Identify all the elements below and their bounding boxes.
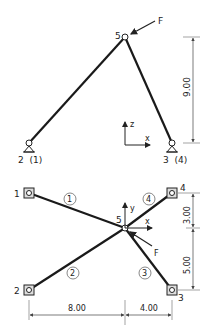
svg-text:1: 1 bbox=[67, 195, 72, 204]
dim-4-label: 4.00 bbox=[140, 304, 158, 313]
force-label: F bbox=[158, 16, 163, 26]
node-4-label: 4 bbox=[180, 183, 186, 193]
member-2 bbox=[29, 228, 125, 290]
node-3-label: 3 bbox=[178, 293, 184, 303]
svg-text:2: 2 bbox=[70, 269, 75, 278]
member-left bbox=[29, 37, 125, 143]
member-1 bbox=[29, 193, 125, 228]
plan-view: 1 2 3 4 5 1 2 3 4 y x F 3.00 5.00 bbox=[14, 183, 200, 325]
axis-x-plan-label: x bbox=[145, 217, 150, 226]
node-5-plan-label: 5 bbox=[116, 215, 122, 225]
member-3 bbox=[125, 228, 172, 290]
member-labels: 1 2 3 4 bbox=[64, 193, 155, 279]
dim-8-label: 8.00 bbox=[68, 304, 86, 313]
support-1-icon bbox=[24, 188, 34, 198]
axis-y-label: y bbox=[130, 204, 135, 213]
support-3-icon bbox=[167, 285, 177, 295]
support-right-icon bbox=[166, 140, 178, 152]
node-2-label: 2 bbox=[14, 286, 20, 296]
axis-z-label: z bbox=[130, 120, 134, 129]
node-5-label: 5 bbox=[115, 31, 121, 41]
dim-3-label: 3.00 bbox=[183, 206, 192, 224]
support-4-icon bbox=[167, 188, 177, 198]
axis-x-label: x bbox=[145, 134, 150, 143]
support-left-icon bbox=[23, 140, 35, 152]
elevation-view: F 5 2 (1) 3 (4) 9.00 z x bbox=[18, 16, 200, 165]
force-plan-label: F bbox=[154, 249, 159, 258]
truss-diagram: F 5 2 (1) 3 (4) 9.00 z x 1 2 3 4 5 bbox=[0, 0, 217, 325]
support-left-label: 2 (1) bbox=[18, 155, 42, 165]
svg-text:3: 3 bbox=[142, 269, 147, 278]
svg-text:4: 4 bbox=[146, 195, 151, 204]
support-2-icon bbox=[24, 285, 34, 295]
node-1-label: 1 bbox=[14, 189, 20, 199]
dim-9-label: 9.00 bbox=[182, 77, 192, 97]
node-5-icon bbox=[122, 34, 128, 40]
dim-5-label: 5.00 bbox=[183, 256, 192, 274]
force-arrow-icon bbox=[131, 21, 155, 34]
support-right-label: 3 (4) bbox=[163, 155, 187, 165]
